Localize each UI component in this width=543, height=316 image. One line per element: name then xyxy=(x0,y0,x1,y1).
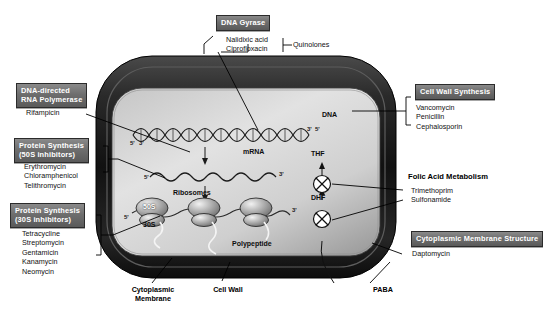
caption-paba: PABA xyxy=(363,285,403,294)
label-rna-polymerase[interactable]: DNA-directed RNA Polymerase xyxy=(16,83,87,108)
drug-trimethoprim: Trimethoprim xyxy=(411,186,453,195)
druglist-cytoplasmic-membrane-structure: Daptomycin xyxy=(412,249,450,258)
ribosome xyxy=(240,198,272,227)
tick-mrna-right-3: 3' xyxy=(279,171,284,177)
label-dna: DNA xyxy=(322,111,337,118)
drug-chloramphenicol: Chloramphenicol xyxy=(24,171,78,180)
ps50s-line1: Protein Synthesis xyxy=(19,141,84,150)
drug-penicillin: Penicillin xyxy=(416,112,462,121)
label-protein-synthesis-50s[interactable]: Protein Synthesis (50S inhibitors) xyxy=(14,138,89,163)
caption-cell-wall: Cell Wall xyxy=(203,285,253,294)
drug-streptomycin: Streptomycin xyxy=(22,238,64,247)
caption-cytoplasmic-membrane: Cytoplasmic Membrane xyxy=(118,285,188,303)
label-mrna: mRNA xyxy=(243,148,264,155)
label-folic-acid-metabolism[interactable]: Folic Acid Metabolism xyxy=(408,172,488,181)
folate-block-upper xyxy=(314,176,331,193)
group-quinolones: Quinolones xyxy=(293,40,329,49)
label-cell-wall-synthesis[interactable]: Cell Wall Synthesis xyxy=(415,84,495,100)
label-30s-subunit: 30S xyxy=(143,221,155,228)
label-protein-synthesis-30s[interactable]: Protein Synthesis (30S inhibitors) xyxy=(10,203,85,228)
rna-polymerase-line1: DNA-directed xyxy=(21,86,82,95)
tick-dna-right-5: 5' xyxy=(315,126,320,132)
label-polypeptide: Polypeptide xyxy=(232,240,272,247)
tick-polysome-5: 5' xyxy=(124,214,129,220)
drug-vancomycin: Vancomycin xyxy=(416,103,462,112)
druglist-protein-synthesis-30s: Tetracycline Streptomycin Gentamicin Kan… xyxy=(22,229,64,276)
ribosome xyxy=(188,198,220,227)
drug-ciprofloxacin: Ciprofloxacin xyxy=(226,44,268,53)
tick-polysome-3: 3' xyxy=(292,207,297,213)
drug-telithromycin: Telithromycin xyxy=(24,181,78,190)
drug-gentamicin: Gentamicin xyxy=(22,248,64,257)
drug-neomycin: Neomycin xyxy=(22,267,64,276)
ps30s-line2: (30S inhibitors) xyxy=(15,215,80,224)
drug-sulfonamide: Sulfonamide xyxy=(411,195,453,204)
drug-cephalosporin: Cephalosporin xyxy=(416,122,462,131)
ps30s-line1: Protein Synthesis xyxy=(15,206,80,215)
ribosome-group xyxy=(136,198,272,227)
druglist-dna-gyrase: Nalidixic acid Ciprofloxacin xyxy=(226,35,268,54)
label-dhf: DHF xyxy=(311,194,325,201)
druglist-folic-acid-metabolism: Trimethoprim Sulfonamide xyxy=(411,186,453,205)
tick-mrna-left-5: 5' xyxy=(144,174,149,180)
label-cytoplasmic-membrane-structure[interactable]: Cytoplasmic Membrane Structure xyxy=(411,231,543,247)
druglist-protein-synthesis-50s: Erythromycin Chloramphenicol Telithromyc… xyxy=(24,162,78,190)
membrane-line1: Cytoplasmic xyxy=(118,285,188,294)
ps50s-line2: (50S inhibitors) xyxy=(19,150,84,159)
label-thf: THF xyxy=(311,150,325,157)
folate-block-lower xyxy=(314,211,331,228)
druglist-rna-polymerase: Rifampicin xyxy=(26,108,60,117)
drug-tetracycline: Tetracycline xyxy=(22,229,64,238)
drug-nalidixic-acid: Nalidixic acid xyxy=(226,35,268,44)
membrane-line2: Membrane xyxy=(118,294,188,303)
drug-erythromycin: Erythromycin xyxy=(24,162,78,171)
druglist-cell-wall-synthesis: Vancomycin Penicillin Cephalosporin xyxy=(416,103,462,131)
label-ribosomes: Ribosomes xyxy=(173,189,211,196)
drug-rifampicin: Rifampicin xyxy=(26,108,60,117)
tick-dna-right-3: 3' xyxy=(307,126,312,132)
drug-kanamycin: Kanamycin xyxy=(22,257,64,266)
tick-dna-left-5: 5' xyxy=(130,140,135,146)
label-50s-subunit: 50S xyxy=(143,203,155,210)
rna-polymerase-line2: RNA Polymerase xyxy=(21,95,82,104)
label-dna-gyrase[interactable]: DNA Gyrase xyxy=(216,15,270,31)
tick-dna-left-3: 3' xyxy=(139,140,144,146)
drug-daptomycin: Daptomycin xyxy=(412,249,450,258)
